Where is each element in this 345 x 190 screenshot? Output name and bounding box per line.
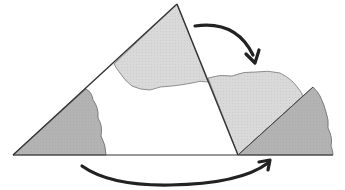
bottom-arrow-icon xyxy=(82,160,270,185)
left-corner-piece xyxy=(13,89,106,155)
diagram-canvas xyxy=(0,0,345,190)
angle-sum-diagram: Triangle angle sum: torn corners rearran… xyxy=(0,0,345,190)
top-arrow-icon xyxy=(195,25,259,63)
